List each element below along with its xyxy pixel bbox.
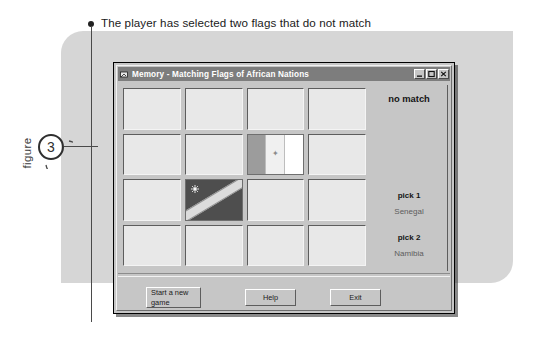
memory-card[interactable] [123, 134, 181, 176]
section-divider [118, 273, 450, 277]
memory-card[interactable] [123, 88, 181, 130]
memory-card[interactable] [308, 179, 366, 221]
close-button[interactable] [438, 69, 449, 79]
panel-divider [447, 85, 448, 271]
memory-card[interactable] [123, 179, 181, 221]
maximize-button[interactable] [426, 69, 437, 79]
pick1-value: Senegal [370, 207, 448, 216]
caption-text: The player has selected two flags that d… [101, 16, 371, 29]
memory-card[interactable] [308, 88, 366, 130]
memory-card-senegal[interactable]: ✦ [247, 134, 305, 176]
window-title: Memory - Matching Flags of African Natio… [132, 70, 414, 79]
pick2-value: Namibia [370, 249, 448, 258]
match-result-text: no match [370, 93, 448, 104]
app-window: Memory - Matching Flags of African Natio… [113, 62, 455, 314]
pick2-label: pick 2 [370, 233, 448, 242]
star-icon: ✦ [272, 150, 279, 158]
senegal-flag-icon: ✦ [248, 135, 304, 175]
memory-card[interactable] [185, 225, 243, 267]
figure-number: 3 [38, 134, 64, 160]
figure-leader-line [64, 146, 98, 147]
memory-card[interactable] [247, 179, 305, 221]
app-icon [120, 70, 129, 79]
callout-line [91, 26, 92, 322]
pick1-label: pick 1 [370, 191, 448, 200]
button-bar: Start a new game Help Exit [118, 287, 450, 309]
status-panel: no match pick 1 Senegal pick 2 Namibia [370, 88, 448, 266]
memory-card[interactable] [123, 225, 181, 267]
memory-card-namibia[interactable] [185, 179, 243, 221]
window-controls [414, 69, 449, 79]
help-button[interactable]: Help [245, 289, 296, 306]
minimize-button[interactable] [414, 69, 425, 79]
memory-card-grid: ✦ [123, 88, 366, 266]
memory-card[interactable] [308, 134, 366, 176]
title-bar[interactable]: Memory - Matching Flags of African Natio… [118, 67, 450, 81]
memory-card[interactable] [185, 134, 243, 176]
sun-icon [191, 185, 200, 194]
memory-card[interactable] [308, 225, 366, 267]
memory-card[interactable] [185, 88, 243, 130]
window-client-area: ✦ [118, 83, 450, 309]
exit-button[interactable]: Exit [330, 289, 381, 306]
start-new-game-button[interactable]: Start a new game [146, 287, 201, 308]
namibia-flag-icon [186, 180, 242, 220]
memory-card[interactable] [247, 225, 305, 267]
memory-card[interactable] [247, 88, 305, 130]
